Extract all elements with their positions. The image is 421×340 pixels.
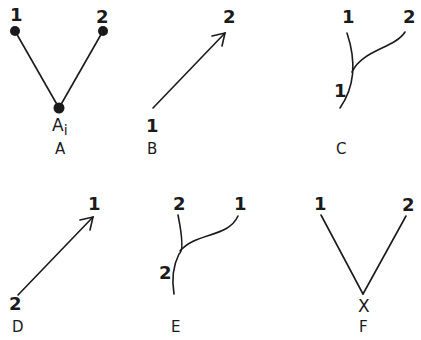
panel-b: 2 1 B (146, 6, 236, 158)
edge-a-2 (59, 31, 103, 108)
panel-c: 1 2 1 C (334, 6, 416, 158)
label-f-2: 2 (402, 194, 415, 215)
caption-e: E (171, 318, 180, 336)
node-a-2 (98, 26, 108, 36)
curve-c-branch (352, 32, 405, 72)
label-a-2: 2 (96, 6, 109, 27)
panel-f: 1 2 X F (314, 193, 415, 336)
curve-e-main (173, 215, 182, 294)
curve-e-branch (180, 216, 238, 251)
label-e-lower: 2 (159, 262, 172, 283)
caption-f: F (359, 318, 368, 336)
label-b-end: 2 (223, 6, 236, 27)
diagram-canvas: 1 2 Ai A 2 1 B 1 2 1 C 1 2 D 2 1 2 E (0, 0, 421, 340)
node-a-i (54, 103, 65, 114)
label-e-top-right: 1 (234, 193, 247, 214)
label-b-start: 1 (146, 115, 159, 136)
label-f-1: 1 (314, 193, 327, 214)
arrow-d-shaft (18, 217, 93, 295)
caption-b: B (147, 140, 157, 158)
label-a-i-subscript: i (64, 122, 68, 138)
label-c-top-left: 1 (342, 6, 355, 27)
edge-f-2 (363, 216, 406, 294)
panel-e: 2 1 2 E (159, 193, 247, 336)
edge-f-1 (321, 215, 363, 294)
node-a-1 (10, 26, 20, 36)
caption-a: A (55, 140, 66, 158)
panel-a: 1 2 Ai A (10, 4, 109, 158)
label-a-i: Ai (52, 115, 68, 138)
caption-c: C (336, 140, 346, 158)
label-c-top-right: 2 (403, 6, 416, 27)
label-d-start: 2 (9, 293, 22, 314)
arrow-b-shaft (153, 33, 225, 108)
label-f-x: X (358, 296, 370, 316)
label-d-end: 1 (88, 193, 101, 214)
panel-d: 1 2 D (9, 193, 101, 336)
label-c-lower: 1 (334, 80, 347, 101)
label-e-top-left: 2 (173, 193, 186, 214)
caption-d: D (12, 318, 24, 336)
label-a-1: 1 (10, 4, 23, 25)
edge-a-1 (15, 31, 59, 108)
